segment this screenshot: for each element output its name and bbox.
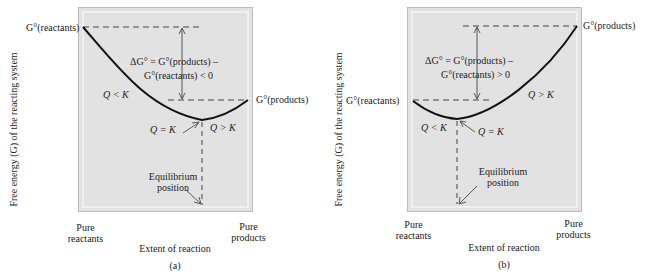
panel-a: Free energy (G) of the reacting system G… bbox=[0, 0, 325, 277]
g-reactants-label: G°(reactants) bbox=[346, 95, 399, 106]
delta-g-line1: ΔG° = G°(products) – bbox=[425, 55, 513, 66]
caption-b: (b) bbox=[489, 259, 519, 270]
delta-g-line2: G°(reactants) > 0 bbox=[441, 69, 510, 80]
x-axis-label: Extent of reaction bbox=[449, 242, 559, 253]
q-greater-k-label: Q > K bbox=[528, 89, 554, 100]
pure-reactants-label: Pure reactants bbox=[63, 222, 108, 244]
pure-products-label: Pure products bbox=[551, 218, 596, 240]
q-greater-k-label: Q > K bbox=[210, 122, 236, 133]
g-reactants-label: G°(reactants) bbox=[26, 22, 79, 33]
pure-reactants-label: Pure reactants bbox=[391, 219, 436, 241]
q-less-k-label: Q < K bbox=[421, 122, 447, 133]
q-equals-k-label: Q = K bbox=[478, 126, 504, 137]
equilibrium-label: Equilibrium position bbox=[468, 166, 538, 188]
panel-b: Free energy (G) of the reacting system G… bbox=[325, 0, 650, 277]
free-energy-curve-a bbox=[0, 0, 325, 277]
equilibrium-label: Equilibrium position bbox=[138, 171, 208, 193]
free-energy-curve-b bbox=[325, 0, 650, 277]
g-products-label: G°(products) bbox=[583, 20, 635, 31]
delta-g-line1: ΔG° = G°(products) – bbox=[130, 56, 218, 67]
q-equals-k-label: Q = K bbox=[150, 124, 176, 135]
delta-g-line2: G°(reactants) < 0 bbox=[144, 70, 213, 81]
g-products-label: G°(products) bbox=[256, 94, 308, 105]
x-axis-label: Extent of reaction bbox=[120, 243, 230, 254]
q-less-k-label: Q < K bbox=[103, 89, 129, 100]
caption-a: (a) bbox=[160, 260, 190, 271]
pure-products-label: Pure products bbox=[226, 221, 271, 243]
